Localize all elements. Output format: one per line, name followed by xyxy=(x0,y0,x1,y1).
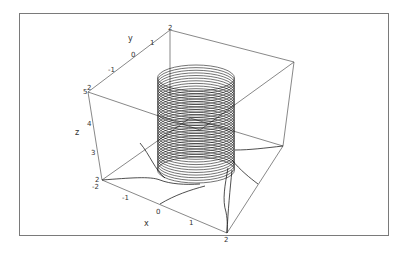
z-tick-top: 2 xyxy=(87,84,91,92)
z-axis-label: z xyxy=(75,128,79,137)
y-tick-neg1: -1 xyxy=(108,66,115,74)
3d-helix-plot: 2 1 0 -1 y 5 2 4 3 2 z -2 -1 0 1 2 x xyxy=(0,0,409,257)
x-tick-0: 0 xyxy=(156,208,160,216)
x-tick-2: 2 xyxy=(224,236,228,244)
z-tick-4: 4 xyxy=(87,120,92,128)
y-tick-1: 1 xyxy=(150,39,154,47)
x-tick-neg1: -1 xyxy=(122,194,129,202)
y-tick-0: 0 xyxy=(131,51,135,59)
y-axis-label: y xyxy=(128,34,133,43)
y-tick-2: 2 xyxy=(168,24,172,32)
helix-curve xyxy=(158,65,235,183)
x-tick-1: 1 xyxy=(189,219,193,227)
bounding-box xyxy=(88,30,294,233)
x-tick-neg2: -2 xyxy=(92,183,99,191)
x-axis-label: x xyxy=(144,219,149,228)
z-tick-3: 3 xyxy=(91,149,95,157)
